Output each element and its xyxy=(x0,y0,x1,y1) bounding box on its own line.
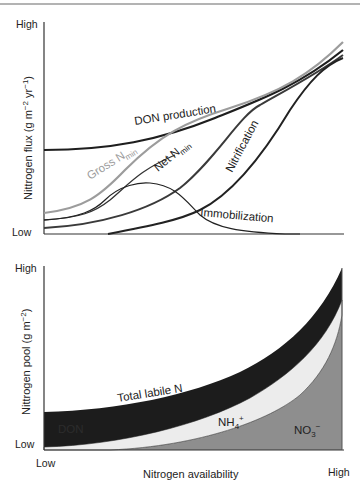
net-nmin-label: Net Nmin xyxy=(152,137,194,176)
nitrification-label: Nitrification xyxy=(223,118,260,174)
pool-y-title: Nittrogen pool (g m−2) xyxy=(19,309,32,415)
flux-y-high: High xyxy=(16,18,38,30)
pool-y-high: High xyxy=(15,262,37,274)
don-production-curve xyxy=(44,50,343,150)
don-label: DON xyxy=(58,423,84,435)
gross-nmin-curve xyxy=(44,42,343,213)
flux-y-title: Nittrogen flux (g m−2 yr−1) xyxy=(21,76,34,200)
pool-x-low: Low xyxy=(36,457,56,469)
pool-x-high: High xyxy=(328,466,350,478)
immobilization-curve xyxy=(44,183,300,234)
nitrogen-figure: High Low Nittrogen flux (g m−2 yr−1) DON… xyxy=(0,0,360,484)
pool-chart: High Low Low High Nitrogen availability … xyxy=(15,262,350,480)
flux-y-low: Low xyxy=(12,226,32,238)
pool-y-low: Low xyxy=(15,438,35,450)
flux-chart: High Low Nittrogen flux (g m−2 yr−1) DON… xyxy=(12,18,344,238)
pool-x-title: Nitrogen availability xyxy=(143,468,239,480)
